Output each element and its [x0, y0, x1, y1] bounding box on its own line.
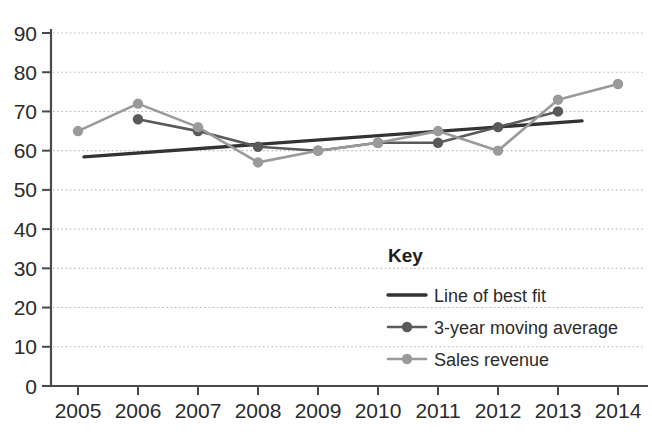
y-tick-label: 90 — [14, 22, 37, 45]
x-tick-label: 2011 — [415, 399, 460, 422]
legend-entry-label: Sales revenue — [434, 350, 549, 370]
data-point-marker — [253, 157, 263, 167]
y-tick-label: 20 — [14, 296, 37, 319]
data-point-marker — [613, 79, 623, 89]
x-tick-label: 2005 — [55, 399, 102, 422]
series-line — [84, 121, 582, 157]
data-point-marker — [313, 145, 323, 155]
x-tick-label: 2014 — [595, 399, 642, 422]
x-tick-label: 2008 — [235, 399, 282, 422]
chart-container: 0102030405060708090 20052006200720082009… — [0, 0, 652, 439]
y-tick-label: 70 — [14, 100, 37, 123]
data-point-marker — [493, 145, 503, 155]
data-point-marker — [553, 106, 563, 116]
y-tick-label: 0 — [25, 375, 37, 398]
legend-title: Key — [388, 245, 423, 266]
data-point-marker — [193, 122, 203, 132]
data-series-layer — [73, 79, 623, 168]
data-point-marker — [493, 122, 503, 132]
x-axis-ticks — [78, 386, 618, 395]
x-axis-tick-labels: 2005200620072008200920102011201220132014 — [55, 399, 642, 422]
data-point-marker — [433, 138, 443, 148]
data-point-marker — [133, 114, 143, 124]
x-tick-label: 2013 — [535, 399, 582, 422]
y-tick-label: 10 — [14, 335, 37, 358]
data-point-marker — [133, 98, 143, 108]
y-axis-ticks — [42, 33, 51, 386]
data-point-marker — [553, 94, 563, 104]
legend-swatch-marker — [402, 322, 412, 332]
y-tick-label: 50 — [14, 178, 37, 201]
legend-swatch-marker — [402, 354, 412, 364]
x-tick-label: 2010 — [355, 399, 402, 422]
line-chart: 0102030405060708090 20052006200720082009… — [0, 0, 652, 439]
y-axis-tick-labels: 0102030405060708090 — [14, 22, 37, 398]
gridlines — [53, 33, 645, 347]
x-tick-label: 2009 — [295, 399, 342, 422]
legend-entry-label: 3-year moving average — [434, 318, 618, 338]
y-tick-label: 60 — [14, 139, 37, 162]
data-point-marker — [433, 126, 443, 136]
data-point-marker — [73, 126, 83, 136]
legend-entry-label: Line of best fit — [434, 286, 546, 306]
x-tick-label: 2012 — [475, 399, 522, 422]
data-point-marker — [373, 138, 383, 148]
x-tick-label: 2006 — [115, 399, 162, 422]
y-tick-label: 80 — [14, 61, 37, 84]
y-tick-label: 30 — [14, 257, 37, 280]
y-tick-label: 40 — [14, 218, 37, 241]
data-point-marker — [253, 142, 263, 152]
x-tick-label: 2007 — [175, 399, 222, 422]
